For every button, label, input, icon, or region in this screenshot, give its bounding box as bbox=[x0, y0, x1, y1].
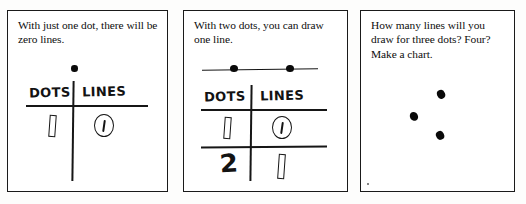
chart-vertical-rule bbox=[71, 81, 74, 181]
panel-three-caption: How many lines will you draw for three d… bbox=[371, 18, 509, 61]
chart-cell-dots-1 bbox=[223, 117, 232, 139]
panel-one: With just one dot, there will be zero li… bbox=[7, 10, 168, 192]
chart-header-dots: DOTS bbox=[29, 84, 71, 100]
scan-speck bbox=[367, 183, 369, 185]
chart-horizontal-rule-top bbox=[201, 109, 327, 111]
chart-cell-lines-0 bbox=[272, 116, 292, 139]
panel-two: With two dots, you can draw one line. DO… bbox=[183, 10, 348, 192]
panel-two-caption: With two dots, you can draw one line. bbox=[194, 18, 338, 47]
panel-one-caption: With just one dot, there will be zero li… bbox=[18, 18, 162, 47]
chart-cell-dots-1 bbox=[48, 115, 57, 137]
dot-marker bbox=[230, 65, 238, 72]
chart-horizontal-rule bbox=[26, 105, 148, 107]
chart-header-lines: LINES bbox=[82, 83, 127, 99]
dot-marker bbox=[408, 111, 419, 123]
dot-marker bbox=[435, 130, 445, 141]
chart-cell-lines-0 bbox=[94, 114, 114, 137]
dot-marker bbox=[71, 65, 78, 72]
figure-page: With just one dot, there will be zero li… bbox=[0, 0, 526, 204]
connecting-line bbox=[202, 68, 318, 71]
chart-cell-lines-1 bbox=[277, 154, 286, 179]
chart-cell-dots-2: 2 bbox=[219, 150, 239, 176]
chart-header-lines: LINES bbox=[260, 87, 305, 103]
chart-vertical-rule bbox=[249, 85, 252, 181]
chart-horizontal-rule-mid bbox=[201, 145, 327, 148]
dot-marker bbox=[436, 89, 446, 100]
panel-three: How many lines will you draw for three d… bbox=[360, 10, 515, 192]
chart-header-dots: DOTS bbox=[204, 88, 246, 104]
dot-marker bbox=[286, 65, 294, 72]
